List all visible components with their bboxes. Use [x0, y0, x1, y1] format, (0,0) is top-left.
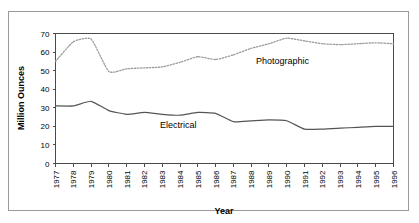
x-tick-label: 1986	[212, 170, 221, 188]
x-tick-label: 1981	[123, 170, 132, 188]
x-tick-label: 1977	[52, 170, 61, 188]
x-tick-label: 1984	[176, 170, 185, 188]
y-tick-label: 0	[45, 160, 50, 169]
x-tick-label: 1991	[301, 170, 310, 188]
series-line-photographic	[56, 38, 394, 72]
y-tick-label: 50	[41, 67, 50, 76]
y-tick-label: 10	[41, 141, 50, 150]
series-label-electrical: Electrical	[160, 120, 197, 130]
y-tick-label: 60	[41, 48, 50, 57]
x-tick-label: 1983	[158, 170, 167, 188]
x-tick-label: 1992	[318, 170, 327, 188]
x-tick-label: 1979	[87, 170, 96, 188]
y-axis-title: Million Ounces	[16, 66, 26, 130]
x-axis-ticks: 1977197819791980198119821983198419851986…	[52, 164, 399, 189]
x-tick-label: 1980	[105, 170, 114, 188]
x-tick-label: 1994	[354, 170, 363, 188]
y-axis-ticks: 010203040506070	[41, 30, 56, 169]
line-chart: 010203040506070 197719781979198019811982…	[0, 0, 419, 223]
x-tick-label: 1995	[372, 170, 381, 188]
y-tick-label: 70	[41, 30, 50, 39]
x-tick-label: 1985	[194, 170, 203, 188]
x-tick-label: 1987	[229, 170, 238, 188]
x-tick-label: 1990	[283, 170, 292, 188]
y-tick-label: 20	[41, 122, 50, 131]
y-tick-label: 30	[41, 104, 50, 113]
chart-figure: 010203040506070 197719781979198019811982…	[0, 0, 419, 223]
series-line-electrical	[56, 101, 394, 129]
x-tick-label: 1982	[140, 170, 149, 188]
x-tick-label: 1989	[265, 170, 274, 188]
series-label-photographic: Photographic	[256, 56, 310, 66]
y-tick-label: 40	[41, 85, 50, 94]
x-tick-label: 1996	[390, 170, 399, 188]
x-tick-label: 1988	[247, 170, 256, 188]
plot-axes	[56, 34, 394, 164]
x-tick-label: 1993	[336, 170, 345, 188]
x-tick-label: 1978	[69, 170, 78, 188]
x-axis-title: Year	[214, 206, 234, 216]
